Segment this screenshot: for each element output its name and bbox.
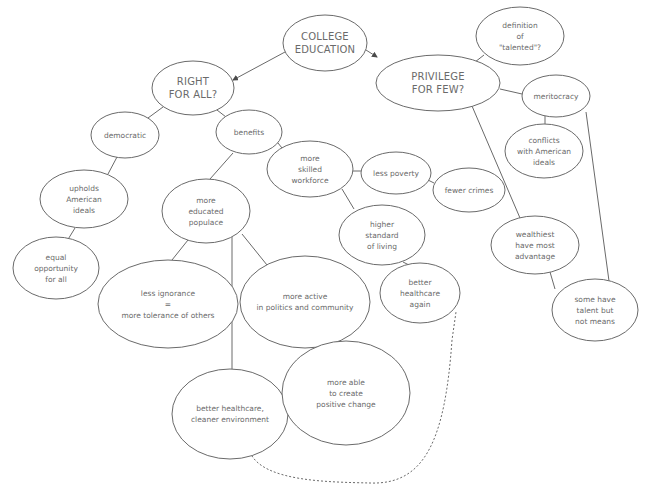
node-label: to create	[329, 389, 363, 398]
node-label: advantage	[515, 252, 555, 261]
node-label: ideals	[73, 206, 95, 215]
node-healthcare-again: betterhealthcareagain	[380, 263, 460, 323]
node-label: higher	[370, 220, 395, 229]
edge-right-to-democratic	[148, 107, 163, 118]
node-label: standard	[365, 231, 399, 240]
node-label: better	[409, 278, 433, 287]
node-positive: more ableto createpositive change	[282, 341, 410, 445]
node-label: fewer crimes	[445, 186, 494, 195]
edge-educated-to-active	[242, 234, 267, 265]
node-label: COLLEGE	[301, 31, 349, 42]
node-label: of	[516, 32, 524, 41]
node-active: more activein politics and community	[240, 256, 370, 348]
node-ellipse	[376, 55, 500, 111]
node-label: cleaner environment	[191, 415, 269, 424]
edge-college-to-right-arrow	[233, 52, 285, 80]
node-label: more able	[327, 378, 365, 387]
node-label: democratic	[104, 131, 146, 140]
node-label: "talented"?	[499, 43, 541, 52]
node-meritocracy: meritocracy	[522, 75, 590, 117]
node-label: meritocracy	[534, 92, 580, 101]
node-ignorance: less ignorance=more tolerance of others	[98, 260, 238, 348]
node-conflicts: conflictswith Americanideals	[505, 124, 583, 178]
node-label: =	[165, 300, 171, 309]
node-label: definition	[502, 21, 538, 30]
node-label: PRIVILEGE	[411, 71, 464, 82]
node-label: benefits	[234, 128, 264, 137]
node-ellipse	[152, 61, 234, 115]
node-right: RIGHTFOR ALL?	[152, 61, 234, 115]
node-label: with American	[517, 147, 571, 156]
concept-map-diagram: COLLEGEEDUCATIONRIGHTFOR ALL?PRIVILEGEFO…	[0, 0, 645, 488]
node-ellipse	[240, 256, 370, 348]
edge-meritocracy-to-talent-means	[586, 112, 609, 281]
edge-democratic-to-upholds	[108, 157, 117, 174]
node-label: equal	[46, 253, 67, 262]
node-label: positive change	[316, 400, 376, 409]
node-ellipse	[172, 369, 288, 459]
edge-benefits-to-educated	[210, 153, 233, 179]
node-label: of living	[367, 242, 397, 251]
node-equal: equalopportunityfor all	[13, 237, 99, 299]
node-poverty: less poverty	[361, 152, 431, 194]
node-label: healthcare	[400, 289, 440, 298]
node-privilege: PRIVILEGEFOR FEW?	[376, 55, 500, 111]
node-label: better healthcare,	[196, 404, 264, 413]
node-label: upholds	[69, 184, 99, 193]
node-upholds: upholdsAmericanideals	[40, 170, 128, 228]
node-educated: moreeducatedpopulace	[162, 179, 250, 243]
edge-educated-to-ignorance	[172, 240, 188, 260]
node-wealthiest: wealthiesthave mostadvantage	[491, 216, 579, 274]
node-benefits: benefits	[216, 110, 282, 154]
edge-wealthiest-to-talent-means	[550, 272, 555, 289]
node-label: FOR ALL?	[169, 89, 218, 100]
node-label: for all	[45, 275, 66, 284]
edge-skilled-to-higher	[342, 189, 354, 209]
node-label: educated	[188, 207, 223, 216]
node-skilled: moreskilledworkforce	[267, 141, 353, 197]
node-label: have most	[515, 241, 555, 250]
node-talented: definitionof"talented"?	[476, 7, 564, 65]
node-label: more	[196, 196, 216, 205]
node-label: ideals	[533, 158, 555, 167]
node-label: less ignorance	[141, 289, 196, 298]
node-label: American	[66, 195, 102, 204]
edge-right-to-benefits	[217, 110, 226, 117]
node-college: COLLEGEEDUCATION	[283, 15, 367, 71]
node-label: more	[300, 154, 320, 163]
node-label: not means	[575, 317, 615, 326]
node-higher: higherstandardof living	[339, 205, 425, 265]
node-label: populace	[189, 218, 224, 227]
node-label: conflicts	[528, 136, 559, 145]
node-talent-means: some havetalent butnot means	[552, 279, 638, 341]
node-crimes: fewer crimes	[433, 168, 505, 212]
node-label: more tolerance of others	[121, 311, 214, 320]
node-label: workforce	[291, 176, 328, 185]
node-label: RIGHT	[177, 76, 210, 87]
node-label: EDUCATION	[295, 44, 356, 55]
node-label: again	[410, 300, 431, 309]
node-label: skilled	[298, 165, 322, 174]
node-label: FOR FEW?	[412, 84, 465, 95]
edge-benefits-to-skilled	[278, 143, 282, 148]
node-label: less poverty	[373, 169, 419, 178]
node-label: wealthiest	[516, 230, 555, 239]
node-label: talent but	[577, 306, 614, 315]
node-label: in politics and community	[257, 303, 355, 312]
node-healthcare-env: better healthcare,cleaner environment	[172, 369, 288, 459]
node-democratic: democratic	[91, 112, 159, 158]
node-label: opportunity	[34, 264, 78, 273]
node-label: some have	[574, 295, 616, 304]
node-label: more active	[283, 292, 328, 301]
nodes-layer: COLLEGEEDUCATIONRIGHTFOR ALL?PRIVILEGEFO…	[13, 7, 638, 459]
edge-privilege-to-meritocracy	[500, 89, 522, 94]
edge-college-to-privilege-arrow	[366, 50, 377, 57]
node-ellipse	[283, 15, 367, 71]
